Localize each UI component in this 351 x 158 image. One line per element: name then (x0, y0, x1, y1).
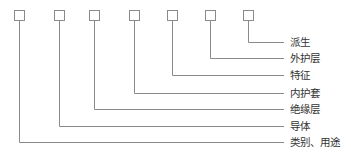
code-box-1 (15, 11, 25, 21)
label-category-use: 类别、用途 (290, 136, 340, 148)
code-box-6 (206, 11, 216, 21)
leader-line-7 (249, 21, 285, 43)
code-box-4 (130, 11, 140, 21)
label-insulation: 绝缘层 (290, 103, 320, 115)
label-outer-sheath: 外护层 (290, 52, 320, 64)
cable-code-diagram: 派生 外护层 特征 内护套 绝缘层 导体 类别、用途 (0, 0, 351, 158)
code-box-5 (168, 11, 178, 21)
leader-line-6 (211, 21, 285, 59)
label-inner-sheath: 内护套 (290, 87, 320, 99)
code-box-7 (244, 11, 254, 21)
label-derivative: 派生 (290, 36, 310, 48)
leader-line-2 (60, 21, 285, 127)
leader-line-4 (135, 21, 285, 94)
leader-line-5 (173, 21, 285, 76)
label-conductor: 导体 (290, 120, 310, 132)
leader-line-3 (95, 21, 285, 110)
code-box-2 (55, 11, 65, 21)
code-box-3 (90, 11, 100, 21)
label-feature: 特征 (290, 69, 310, 81)
